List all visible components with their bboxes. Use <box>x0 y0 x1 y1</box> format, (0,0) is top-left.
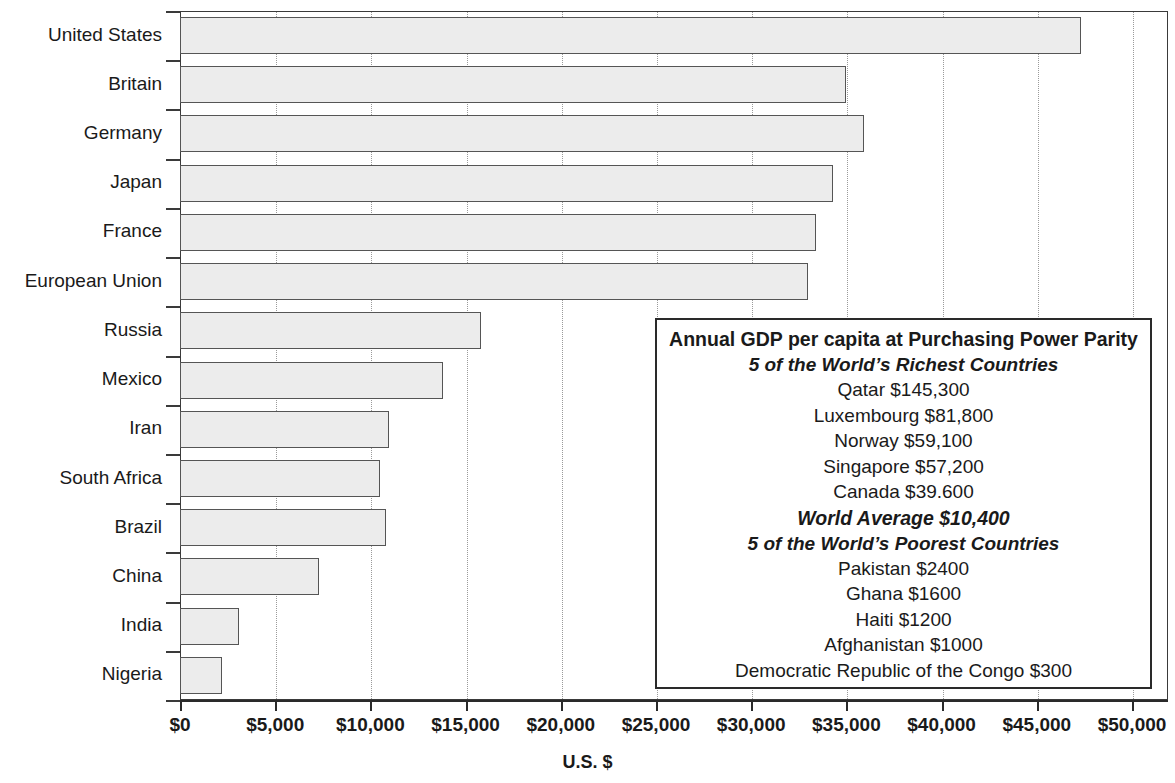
x-axis-tick-label: $5,000 <box>246 714 304 736</box>
bar <box>180 263 808 300</box>
y-axis-tick <box>166 208 180 210</box>
poorest-country-entry: Democratic Republic of the Congo $300 <box>657 658 1150 684</box>
bar <box>180 558 319 595</box>
poorest-country-entry: Pakistan $2400 <box>657 556 1150 582</box>
bar <box>180 214 816 251</box>
x-axis-tick <box>1132 700 1134 711</box>
richest-country-entry: Qatar $145,300 <box>657 377 1150 403</box>
poorest-countries-list: Pakistan $2400Ghana $1600Haiti $1200Afgh… <box>657 556 1150 684</box>
y-axis-label: Russia <box>104 319 162 341</box>
bar <box>180 657 222 694</box>
bar <box>180 362 443 399</box>
richest-country-entry: Singapore $57,200 <box>657 454 1150 480</box>
y-axis-tick <box>166 651 180 653</box>
y-axis-label: Iran <box>129 417 162 439</box>
y-axis-tick <box>166 356 180 358</box>
x-axis-tick-label: $30,000 <box>717 714 786 736</box>
y-axis-label: Britain <box>108 73 162 95</box>
x-axis-tick <box>561 700 563 711</box>
x-axis-tick-label: $25,000 <box>622 714 691 736</box>
y-axis-label: South Africa <box>60 467 162 489</box>
y-axis-tick <box>166 700 180 702</box>
y-axis-label: United States <box>48 24 162 46</box>
x-axis-tick-label: $35,000 <box>812 714 881 736</box>
richest-country-entry: Luxembourg $81,800 <box>657 403 1150 429</box>
poorest-country-entry: Ghana $1600 <box>657 581 1150 607</box>
bar <box>180 608 239 645</box>
x-axis-tick-label: $45,000 <box>1002 714 1071 736</box>
x-axis-tick-label: $50,000 <box>1098 714 1167 736</box>
y-axis-label: France <box>103 220 162 242</box>
y-axis-label: China <box>112 565 162 587</box>
x-axis-tick-label: $10,000 <box>336 714 405 736</box>
y-axis-label: European Union <box>25 270 162 292</box>
y-axis-label: Germany <box>84 122 162 144</box>
poorest-country-entry: Afghanistan $1000 <box>657 632 1150 658</box>
x-axis-tick <box>275 700 277 711</box>
x-axis-title: U.S. $ <box>0 752 1175 773</box>
x-axis-tick <box>466 700 468 711</box>
bar <box>180 460 380 497</box>
x-axis-line <box>180 700 1168 702</box>
bar-row <box>180 208 1168 257</box>
y-axis-label: India <box>121 614 162 636</box>
richest-countries-list: Qatar $145,300Luxembourg $81,800Norway $… <box>657 377 1150 505</box>
y-axis-tick <box>166 552 180 554</box>
y-axis-tick <box>166 454 180 456</box>
y-axis-tick <box>166 11 180 13</box>
bar <box>180 411 389 448</box>
x-axis-tick-label: $15,000 <box>431 714 500 736</box>
bar <box>180 115 864 152</box>
gdp-per-capita-bar-chart: Annual GDP per capita at Purchasing Powe… <box>0 0 1175 783</box>
world-average: World Average $10,400 <box>657 505 1150 531</box>
x-axis-tick-label: $40,000 <box>907 714 976 736</box>
bar <box>180 312 481 349</box>
poorest-heading: 5 of the World’s Poorest Countries <box>657 531 1150 556</box>
annotation-title: Annual GDP per capita at Purchasing Powe… <box>657 327 1150 352</box>
bar-row <box>180 109 1168 158</box>
poorest-country-entry: Haiti $1200 <box>657 607 1150 633</box>
y-axis-label: Nigeria <box>102 663 162 685</box>
bar-row <box>180 60 1168 109</box>
y-axis-tick <box>166 602 180 604</box>
y-axis-label: Japan <box>110 171 162 193</box>
x-axis-tick-label: $20,000 <box>526 714 595 736</box>
x-axis-tick <box>656 700 658 711</box>
bar-row <box>180 159 1168 208</box>
y-axis-tick <box>166 306 180 308</box>
richest-country-entry: Norway $59,100 <box>657 428 1150 454</box>
richest-country-entry: Canada $39.600 <box>657 479 1150 505</box>
y-axis-tick <box>166 257 180 259</box>
y-axis-tick <box>166 60 180 62</box>
x-axis-tick <box>180 700 182 711</box>
bar-row <box>180 11 1168 60</box>
bar <box>180 509 386 546</box>
x-axis-tick <box>942 700 944 711</box>
y-axis-tick <box>166 503 180 505</box>
y-axis-label: Brazil <box>114 516 162 538</box>
y-axis-tick <box>166 109 180 111</box>
x-axis-tick <box>846 700 848 711</box>
richest-heading: 5 of the World’s Richest Countries <box>657 352 1150 377</box>
y-axis-label: Mexico <box>102 368 162 390</box>
x-axis-tick <box>751 700 753 711</box>
x-axis-tick-label: $0 <box>169 714 190 736</box>
bar-row <box>180 257 1168 306</box>
y-axis-tick <box>166 405 180 407</box>
x-axis-tick <box>370 700 372 711</box>
bar <box>180 165 833 202</box>
y-axis-labels: United StatesBritainGermanyJapanFranceEu… <box>0 11 172 700</box>
y-axis-tick <box>166 159 180 161</box>
bar <box>180 17 1081 54</box>
x-axis-tick <box>1037 700 1039 711</box>
bar <box>180 66 846 103</box>
annotation-box: Annual GDP per capita at Purchasing Powe… <box>655 318 1152 689</box>
